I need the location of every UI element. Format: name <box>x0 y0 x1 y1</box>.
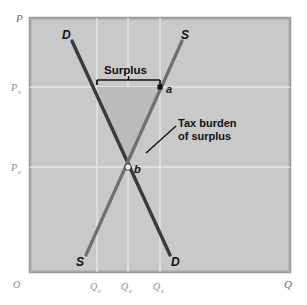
x-tick-label-qs: Q <box>153 281 161 292</box>
point-b-marker <box>125 164 131 170</box>
point-b-label: b <box>134 163 141 175</box>
tax-burden-label-line1: Tax burden <box>178 117 237 129</box>
y-tick-sub-ps: s <box>18 88 21 96</box>
demand-label-top: D <box>62 28 71 42</box>
supply-demand-chart: P P s P e O Q c Q e Q s Q D S S D a b Su… <box>0 0 307 305</box>
supply-label-top: S <box>181 28 189 42</box>
x-tick-label-qc: Q <box>90 281 98 292</box>
demand-label-bottom: D <box>171 255 180 269</box>
x-tick-sub-qe: e <box>129 287 132 295</box>
x-axis-label: Q <box>284 278 292 290</box>
y-axis-label: P <box>15 12 23 24</box>
tax-burden-label-line2: of surplus <box>178 130 231 142</box>
y-tick-label-pe: P <box>10 162 17 173</box>
x-tick-sub-qs: s <box>161 287 164 295</box>
supply-label-bottom: S <box>76 255 84 269</box>
point-a-label: a <box>166 83 172 95</box>
y-tick-sub-pe: e <box>18 168 21 176</box>
point-a-marker <box>158 85 163 90</box>
surplus-label: Surplus <box>104 64 147 76</box>
y-tick-label-ps: P <box>10 82 17 93</box>
x-tick-label-qe: Q <box>121 281 129 292</box>
origin-label: O <box>13 279 20 290</box>
